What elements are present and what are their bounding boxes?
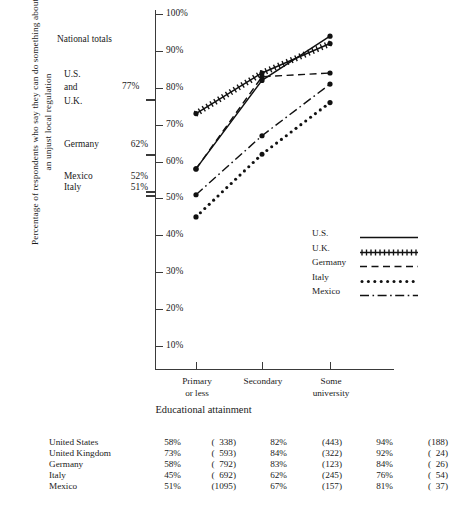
series-italy-dot [294,127,297,130]
table-cell-secondary-n: (123) [287,459,360,470]
series-italy-dot [285,134,288,137]
series-italy-dot [234,178,237,181]
series-mexico-marker [327,81,332,86]
table-cell-university-pct: 81% [360,481,393,492]
legend-swatch-solid [360,233,418,239]
series-italy-dot [265,149,268,152]
table-cell-secondary-n: (245) [287,470,360,481]
series-germany-marker [327,70,332,75]
x-tick-label-0: Primary or less [166,375,228,399]
table-row: Italy45%( 692)62%(245)76%( 54) [49,470,453,481]
table-cell-secondary-pct: 67% [254,481,287,492]
series-italy-marker [193,214,198,219]
legend-label-1: U.K. [312,243,330,253]
series-italy-marker [327,100,332,105]
series-uk-marker [327,41,332,46]
table-cell-country: Mexico [49,481,148,492]
series-italy-dot [212,199,215,202]
table-row: United States58%( 338)82%(443)94%(188) [49,437,453,448]
x-tick-label-2: Some university [297,375,365,399]
series-italy-dot [230,182,233,185]
x-axis-title: Educational attainment [0,404,407,415]
legend-swatch-dash-dot [360,291,418,297]
table-cell-primary-pct: 51% [148,481,181,492]
series-italy-dot [304,119,307,122]
series-italy-dot [280,138,283,141]
legend-swatch-cross-hatch [360,248,418,254]
table-cell-secondary-pct: 82% [254,437,287,448]
series-italy-marker [260,152,265,157]
series-italy-dot [216,194,219,197]
series-italy-dot [243,169,246,172]
legend-label-3: Italy [312,272,329,282]
table-cell-university-n: ( 54) [393,470,453,481]
table-cell-secondary-pct: 84% [254,448,287,459]
x-tick-label-0-line2: or less [185,388,209,398]
series-italy-dot [203,207,206,210]
series-italy-dot [221,190,224,193]
table-cell-university-pct: 84% [360,459,393,470]
table-cell-secondary-pct: 62% [254,470,287,481]
series-us-marker [327,34,332,39]
table-cell-primary-pct: 58% [148,459,181,470]
series-italy-dot [270,145,273,148]
x-tick-label-2-line2: university [313,388,350,398]
table-cell-primary-pct: 45% [148,470,181,481]
series-germany-marker [259,74,264,79]
series-italy-dot [199,211,202,214]
table-cell-university-pct: 76% [360,470,393,481]
table-cell-secondary-n: (443) [287,437,360,448]
series-italy-dot [247,165,250,168]
series-italy-dot [314,112,317,115]
table-row: Mexico51%(1095)67%(157)81%( 37) [49,481,453,492]
legend-label-0: U.S. [312,228,328,238]
series-italy-dot [256,157,259,160]
table-cell-secondary-pct: 83% [254,459,287,470]
series-italy-dot [309,116,312,119]
legend-label-4: Mexico [312,286,340,296]
table-row: Germany58%( 792)83%(123)84%( 26) [49,459,453,470]
x-tick-label-2-line1: Some [321,376,342,386]
table-cell-university-n: ( 26) [393,459,453,470]
table-row: United Kingdom73%( 593)84%(322)92%( 24) [49,448,453,459]
series-italy-dot [319,108,322,111]
table-cell-primary-n: ( 692) [181,470,254,481]
legend-swatch-dashed [360,262,418,268]
table-cell-country: Germany [49,459,148,470]
table-cell-secondary-n: (322) [287,448,360,459]
series-italy-dot [238,174,241,177]
table-cell-university-n: (188) [393,437,453,448]
table-cell-country: United Kingdom [49,448,148,459]
series-italy-dot [324,105,327,108]
series-italy-dot [290,130,293,133]
table-cell-university-n: ( 24) [393,448,453,459]
table-cell-university-pct: 92% [360,448,393,459]
table-cell-country: United States [49,437,148,448]
table-cell-university-pct: 94% [360,437,393,448]
series-italy-dot [252,161,255,164]
table-cell-primary-n: (1095) [181,481,254,492]
series-germany-marker [193,166,198,171]
table-cell-primary-n: ( 338) [181,437,254,448]
x-tick-label-1: Secondary [230,375,296,387]
series-italy-dot [275,142,278,145]
table-cell-secondary-n: (157) [287,481,360,492]
table-cell-country: Italy [49,470,148,481]
data-table: United States58%( 338)82%(443)94%(188)Un… [49,437,453,492]
x-tick-label-0-line1: Primary [182,376,212,386]
table-cell-primary-pct: 58% [148,437,181,448]
legend-label-2: Germany [312,257,346,267]
table-cell-university-n: ( 37) [393,481,453,492]
series-italy-dot [299,123,302,126]
table-cell-primary-n: ( 792) [181,459,254,470]
series-mexico-marker [193,192,198,197]
series-italy-dot [208,203,211,206]
table-cell-primary-pct: 73% [148,448,181,459]
table-cell-primary-n: ( 593) [181,448,254,459]
series-mexico-marker [259,133,264,138]
series-uk-marker [193,111,198,116]
series-italy-dot [225,186,228,189]
